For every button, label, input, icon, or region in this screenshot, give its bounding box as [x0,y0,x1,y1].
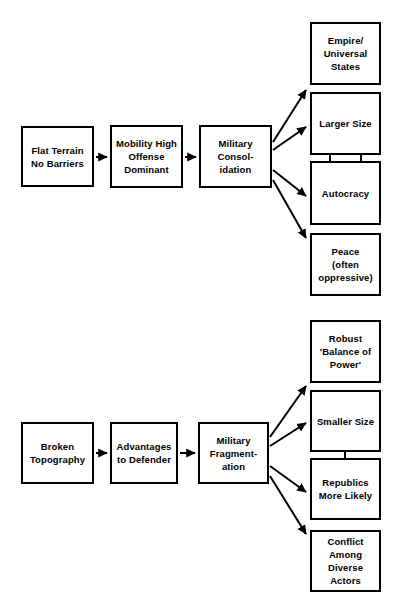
node-label: Peace (often oppressive) [316,245,374,284]
node-label: Flat Terrain No Barriers [29,144,86,170]
node-flat-terrain[interactable]: Flat Terrain No Barriers [21,126,94,187]
node-label: Empire/ Universal States [322,34,370,73]
node-conflict-diverse-actors[interactable]: Conflict Among Diverse Actors [310,530,381,592]
node-label: Conflict Among Diverse Actors [325,535,365,587]
connector-military-fragmentation-to-conflict-diverse-actors [270,476,306,534]
node-autocracy[interactable]: Autocracy [310,161,381,225]
node-label: Mobility High Offense Dominant [114,137,179,176]
connector-military-consolidation-to-empire-universal-states [273,90,306,142]
node-smaller-size[interactable]: Smaller Size [310,390,381,452]
node-empire-universal-states[interactable]: Empire/ Universal States [310,22,381,85]
node-label: Autocracy [320,187,371,200]
connector-military-fragmentation-to-robust-balance-of-power [270,386,306,437]
node-label: Military Fragment- ation [208,434,259,473]
node-label: Smaller Size [315,415,376,428]
connector-military-fragmentation-to-republics-more-likely [270,466,306,492]
node-advantages-defender[interactable]: Advantages to Defender [110,422,178,484]
node-peace-oppressive[interactable]: Peace (often oppressive) [310,233,381,296]
node-robust-balance-of-power[interactable]: Robust 'Balance of Power' [310,320,381,383]
connector-military-consolidation-to-larger-size [273,127,306,150]
node-military-fragmentation[interactable]: Military Fragment- ation [198,422,269,484]
node-label: Larger Size [317,117,373,130]
node-military-consolidation[interactable]: Military Consol- idation [199,125,272,188]
node-label: Republics More Likely [317,476,374,502]
node-label: Robust 'Balance of Power' [318,332,373,371]
node-broken-topography[interactable]: Broken Topography [21,422,94,484]
node-mobility-high[interactable]: Mobility High Offense Dominant [110,125,183,188]
node-label: Military Consol- idation [215,137,255,176]
node-republics-more-likely[interactable]: Republics More Likely [310,458,381,520]
connector-military-consolidation-to-autocracy [273,170,306,196]
connector-military-fragmentation-to-smaller-size [270,423,306,446]
connector-military-consolidation-to-peace-oppressive [273,180,306,238]
node-label: Advantages to Defender [115,440,174,466]
node-larger-size[interactable]: Larger Size [310,92,381,155]
node-label: Broken Topography [28,440,87,466]
diagram-canvas: Flat Terrain No BarriersMobility High Of… [0,0,397,610]
